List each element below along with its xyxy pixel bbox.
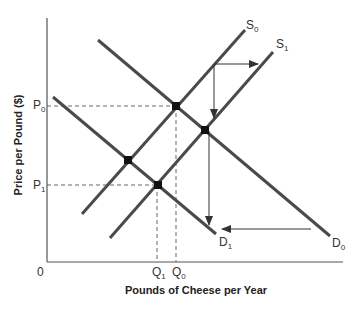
supply-demand-diagram: S0 S1 D0 D1 P0 P1 Q1 Q0 0 Pounds of Chee… bbox=[0, 0, 361, 310]
label-q1: Q1 bbox=[152, 265, 166, 281]
equilibrium-points bbox=[124, 102, 209, 189]
label-d0: D0 bbox=[332, 236, 346, 252]
origin-label: 0 bbox=[37, 265, 44, 279]
equilibrium-s1-d0 bbox=[201, 126, 209, 134]
equilibrium-s0-d1 bbox=[124, 156, 132, 164]
supply-curve-s1 bbox=[110, 52, 273, 238]
curves bbox=[53, 30, 330, 238]
y-axis-title: Price per Pound ($) bbox=[12, 94, 24, 195]
label-p1: P1 bbox=[33, 178, 46, 194]
label-d1: D1 bbox=[219, 235, 233, 251]
equilibrium-s1-d1 bbox=[154, 181, 162, 189]
label-s0: S0 bbox=[246, 18, 259, 34]
equilibrium-s0-d0 bbox=[172, 102, 180, 110]
supply-curve-s0 bbox=[82, 30, 245, 214]
label-s1: S1 bbox=[276, 37, 289, 53]
label-q0: Q0 bbox=[172, 265, 186, 281]
x-axis-title: Pounds of Cheese per Year bbox=[125, 284, 268, 296]
label-p0: P0 bbox=[33, 98, 46, 114]
